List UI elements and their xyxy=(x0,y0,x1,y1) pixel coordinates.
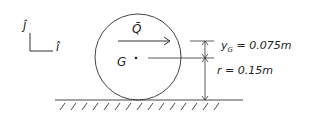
i-hat-label: î xyxy=(56,40,59,54)
dimension-leaders xyxy=(148,41,214,100)
yg-dimension-label: yG = 0.075m xyxy=(221,39,291,54)
j-hat-label: ĵ xyxy=(23,18,26,32)
center-label: G xyxy=(117,55,126,69)
diagram-svg xyxy=(0,0,321,120)
yg-value: = 0.075m xyxy=(233,39,291,52)
ground-surface xyxy=(55,100,243,110)
diagram-canvas: ĵ î Q̄ G yG = 0.075m r = 0.15m xyxy=(0,0,321,120)
axes-icon xyxy=(30,33,53,51)
center-of-mass-dot xyxy=(135,57,138,60)
r-dimension-label: r = 0.15m xyxy=(217,64,273,77)
force-label: Q̄ xyxy=(132,22,141,36)
force-arrow-icon xyxy=(118,37,170,45)
